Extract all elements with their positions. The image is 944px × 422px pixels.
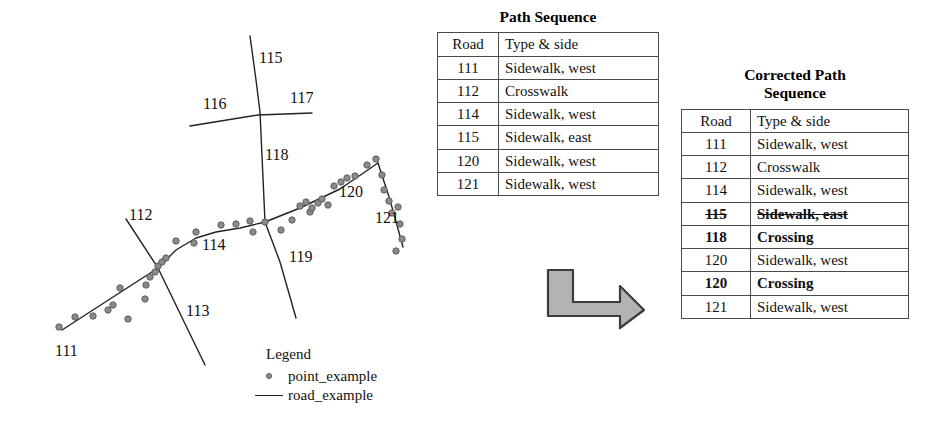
legend-point-swatch [250, 373, 288, 379]
map-point [147, 274, 153, 280]
map-point [250, 229, 256, 235]
corrected-path-sequence-row: 120Crossing [682, 272, 909, 295]
map-point [142, 296, 148, 302]
corrected-path-sequence-cell-type: Sidewalk, west [751, 249, 909, 272]
map-point [163, 255, 169, 261]
road-label-114: 114 [202, 237, 225, 253]
map-point [325, 202, 331, 208]
corrected-path-sequence-block: Corrected Path Sequence RoadType & side1… [681, 66, 909, 319]
line-marker-icon [255, 395, 283, 396]
map-point [297, 203, 303, 209]
path-sequence-cell-road: 121 [438, 172, 499, 195]
map-point [379, 172, 385, 178]
map-point [303, 199, 309, 205]
path-sequence-cell-type: Sidewalk, east [499, 126, 659, 149]
legend-road-swatch [250, 395, 288, 396]
map-point [143, 282, 149, 288]
corrected-path-sequence-cell-road: 120 [682, 272, 751, 295]
path-sequence-cell-type: Sidewalk, west [499, 149, 659, 172]
roads-layer [62, 36, 403, 365]
road-map-panel: 111112113114115116117118119120121 Legend… [0, 0, 430, 422]
map-point [278, 227, 284, 233]
map-point [110, 302, 116, 308]
corrected-path-sequence-row: 114Sidewalk, west [682, 179, 909, 202]
corrected-path-sequence-row: 112Crosswalk [682, 156, 909, 179]
elbow-arrow-icon [540, 266, 650, 332]
path-sequence-cell-type: Crosswalk [499, 79, 659, 102]
path-sequence-table: RoadType & side111Sidewalk, west112Cross… [437, 32, 659, 196]
path-sequence-column-header: Type & side [499, 33, 659, 56]
corrects-to-arrow [540, 266, 650, 332]
corrected-path-sequence-cell-road: 120 [682, 249, 751, 272]
map-point [193, 229, 199, 235]
path-sequence-header-row: RoadType & side [438, 33, 659, 56]
legend-item-point: point_example [250, 367, 410, 385]
map-point [125, 316, 131, 322]
path-sequence-title: Path Sequence [437, 8, 659, 26]
map-point [309, 205, 315, 211]
road-label-119: 119 [289, 249, 312, 265]
path-sequence-cell-road: 120 [438, 149, 499, 172]
map-point [262, 219, 268, 225]
map-point [289, 217, 295, 223]
road-segment-116-117 [190, 113, 312, 126]
legend-item-road: road_example [250, 386, 410, 404]
corrected-path-sequence-cell-type: Sidewalk, west [751, 179, 909, 202]
path-sequence-column-header: Road [438, 33, 499, 56]
map-point [117, 285, 123, 291]
corrected-path-sequence-row: 111Sidewalk, west [682, 132, 909, 155]
map-point [393, 248, 399, 254]
legend-title: Legend [266, 346, 410, 363]
road-label-121: 121 [375, 210, 399, 226]
map-point [90, 313, 96, 319]
path-sequence-cell-road: 114 [438, 103, 499, 126]
path-sequence-block: Path Sequence RoadType & side111Sidewalk… [437, 8, 659, 196]
legend-point-label: point_example [288, 368, 377, 385]
corrected-path-sequence-row: 121Sidewalk, west [682, 295, 909, 318]
path-sequence-row: 111Sidewalk, west [438, 56, 659, 79]
path-sequence-cell-type: Sidewalk, west [499, 172, 659, 195]
corrected-path-sequence-column-header: Type & side [751, 109, 909, 132]
corrected-path-sequence-cell-road: 121 [682, 295, 751, 318]
corrected-path-sequence-row: 118Crossing [682, 225, 909, 248]
map-point [191, 240, 197, 246]
map-point [373, 156, 379, 162]
corrected-path-sequence-cell-type: Crossing [751, 272, 909, 295]
corrected-path-sequence-cell-road: 114 [682, 179, 751, 202]
map-point [233, 221, 239, 227]
path-sequence-row: 115Sidewalk, east [438, 126, 659, 149]
corrected-path-sequence-row: 115Sidewalk, east [682, 202, 909, 225]
corrected-path-sequence-cell-type: Crossing [751, 225, 909, 248]
path-sequence-cell-road: 115 [438, 126, 499, 149]
point-marker-icon [266, 373, 272, 379]
map-point [218, 222, 224, 228]
map-point [364, 162, 370, 168]
map-point [72, 314, 78, 320]
corrected-path-sequence-cell-road: 115 [682, 202, 751, 225]
path-sequence-row: 121Sidewalk, west [438, 172, 659, 195]
map-point [105, 307, 111, 313]
road-label-112: 112 [129, 207, 152, 223]
road-label-116: 116 [203, 96, 226, 112]
map-point [399, 236, 405, 242]
path-sequence-cell-road: 112 [438, 79, 499, 102]
map-point [247, 218, 253, 224]
map-point [319, 196, 325, 202]
road-label-115: 115 [259, 50, 282, 66]
corrected-path-sequence-cell-type: Sidewalk, east [751, 202, 909, 225]
legend-road-label: road_example [288, 387, 373, 404]
map-point [331, 183, 337, 189]
corrected-path-sequence-cell-type: Crosswalk [751, 156, 909, 179]
path-sequence-cell-road: 111 [438, 56, 499, 79]
map-point [56, 324, 62, 330]
path-sequence-row: 114Sidewalk, west [438, 103, 659, 126]
corrected-path-sequence-row: 120Sidewalk, west [682, 249, 909, 272]
map-legend: Legend point_example road_example [250, 346, 410, 405]
corrected-path-sequence-column-header: Road [682, 109, 751, 132]
path-sequence-cell-type: Sidewalk, west [499, 103, 659, 126]
map-point [152, 269, 158, 275]
map-point [352, 173, 358, 179]
corrected-path-sequence-cell-road: 111 [682, 132, 751, 155]
road-label-117: 117 [290, 90, 313, 106]
figure-root: 111112113114115116117118119120121 Legend… [0, 0, 944, 422]
